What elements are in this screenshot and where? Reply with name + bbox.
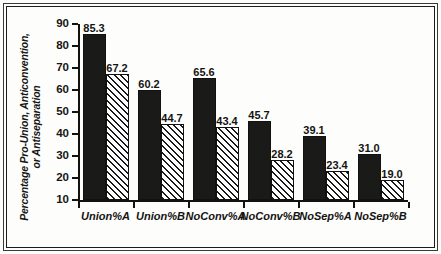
bar: 45.7: [248, 121, 271, 200]
bar-value-label: 67.2: [106, 63, 127, 74]
y-axis-tick-mark: [72, 67, 78, 69]
y-axis-tick-mark: [72, 111, 78, 113]
y-axis-tick-mark: [72, 133, 78, 135]
bar-value-label: 60.2: [138, 79, 159, 90]
x-axis-tick-mark: [78, 202, 80, 208]
x-axis-tick-mark: [133, 202, 135, 208]
bar-value-label: 85.3: [83, 23, 104, 34]
bar: 60.2: [138, 90, 161, 200]
x-axis-tick-mark: [353, 202, 355, 208]
y-axis-tick-mark: [72, 199, 78, 201]
y-axis-tick-label: 30: [56, 150, 69, 162]
bar-value-label: 23.4: [326, 160, 347, 171]
y-axis-tick-label: 50: [56, 106, 69, 118]
x-axis-category-label: Union%A: [81, 211, 130, 222]
bar: 39.1: [303, 136, 326, 200]
y-axis-tick-mark: [72, 23, 78, 25]
bar: 23.4: [326, 171, 349, 200]
x-axis-category-label: Union%B: [136, 211, 185, 222]
y-axis-tick-label: 60: [56, 84, 69, 96]
bar-value-label: 65.6: [193, 67, 214, 78]
bar: 43.4: [216, 127, 239, 200]
x-axis-category-label: NoSep%A: [299, 211, 352, 222]
x-axis-tick-mark: [243, 202, 245, 208]
x-axis-category-label: NoConv%B: [241, 211, 301, 222]
x-axis-tick-mark: [298, 202, 300, 208]
bar: 85.3: [83, 34, 106, 200]
bar-value-label: 45.7: [248, 110, 269, 121]
x-axis-tick-mark: [188, 202, 190, 208]
y-axis-tick-mark: [72, 45, 78, 47]
y-axis-tick-label: 90: [56, 18, 69, 30]
plot-area: 102030405060708090 85.367.260.244.765.64…: [78, 24, 408, 202]
y-axis-tick-label: 80: [56, 40, 69, 52]
y-axis-line: [78, 24, 80, 202]
bar-value-label: 31.0: [358, 143, 379, 154]
bar: 67.2: [106, 74, 129, 200]
y-axis-tick-label: 70: [56, 62, 69, 74]
y-axis-tick-label: 20: [56, 172, 69, 184]
bar: 44.7: [161, 124, 184, 200]
x-axis-tick-mark: [408, 202, 410, 208]
bar: 19.0: [381, 180, 404, 200]
y-axis-tick-label: 40: [56, 128, 69, 140]
bar-value-label: 39.1: [303, 125, 324, 136]
y-axis-tick-mark: [72, 155, 78, 157]
x-axis-category-label: NoConv%A: [186, 211, 246, 222]
y-axis-tick-mark: [72, 177, 78, 179]
y-axis-tick-mark: [72, 89, 78, 91]
bar-value-label: 44.7: [161, 113, 182, 124]
bar-value-label: 28.2: [271, 149, 292, 160]
bar: 65.6: [193, 78, 216, 200]
x-axis-category-label: NoSep%B: [354, 211, 407, 222]
figure: Percentage Pro-Union, Anticonvention, or…: [0, 0, 441, 254]
bar-value-label: 19.0: [381, 169, 402, 180]
y-axis-tick-label: 10: [56, 194, 69, 206]
bar: 31.0: [358, 154, 381, 200]
bar-value-label: 43.4: [216, 116, 237, 127]
bar: 28.2: [271, 160, 294, 200]
